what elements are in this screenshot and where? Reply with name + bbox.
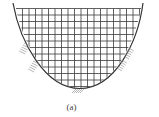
- grid-mesh: [0, 9, 159, 96]
- parabolic-boundary-curve: [13, 3, 143, 89]
- support-hatch-bottom: [72, 89, 84, 93]
- parabolic-grid-diagram: [0, 0, 159, 117]
- caption-label: (a): [67, 102, 77, 112]
- figure-caption: (a): [0, 102, 159, 112]
